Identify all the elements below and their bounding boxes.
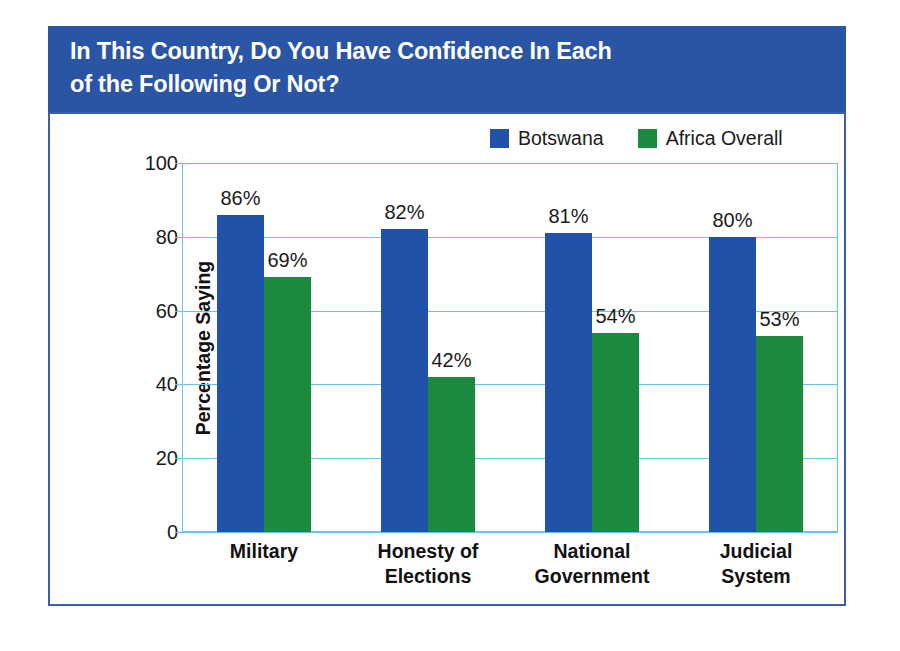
y-tick-label: 40 (118, 373, 178, 396)
bar-value-label: 54% (578, 305, 653, 328)
y-tick-label: 80 (118, 225, 178, 248)
bar-value-label: 80% (695, 209, 770, 232)
plot-area: Percentage Saying “Yes, Have Confidence”… (182, 163, 838, 532)
y-tick-label: 100 (118, 152, 178, 175)
x-tick-label: National Government (500, 539, 684, 589)
bar-value-label: 53% (742, 308, 817, 331)
bar-value-label: 81% (531, 205, 606, 228)
bar-botswana (709, 237, 756, 532)
y-tick-mark (175, 311, 182, 312)
bar-africa-overall (264, 277, 311, 532)
bar-value-label: 69% (250, 249, 325, 272)
x-tick-label: Judicial System (664, 539, 848, 589)
bar-botswana (545, 233, 592, 532)
legend-swatch-botswana (490, 129, 509, 148)
y-tick-mark (175, 384, 182, 385)
chart-legend: Botswana Africa Overall (490, 126, 783, 150)
y-tick-label: 20 (118, 447, 178, 470)
chart-figure: In This Country, Do You Have Confidence … (0, 0, 900, 651)
y-tick-mark (175, 163, 182, 164)
x-tick-label: Honesty of Elections (336, 539, 520, 589)
y-tick-label: 0 (118, 521, 178, 544)
legend-entry-botswana: Botswana (490, 127, 604, 150)
x-tick-label: Military (172, 539, 356, 564)
gridline (182, 163, 838, 164)
y-tick-mark (175, 532, 182, 533)
legend-label-africa-overall: Africa Overall (666, 127, 783, 150)
gridline (182, 532, 838, 533)
legend-swatch-africa-overall (638, 129, 657, 148)
bar-value-label: 86% (203, 187, 278, 210)
legend-label-botswana: Botswana (518, 127, 604, 150)
bar-africa-overall (756, 336, 803, 532)
bar-value-label: 42% (414, 349, 489, 372)
y-tick-mark (175, 458, 182, 459)
y-tick-label: 60 (118, 299, 178, 322)
chart-header-banner: In This Country, Do You Have Confidence … (48, 26, 846, 112)
legend-entry-africa-overall: Africa Overall (638, 127, 783, 150)
y-tick-mark (175, 237, 182, 238)
bar-africa-overall (592, 333, 639, 532)
chart-title: In This Country, Do You Have Confidence … (70, 35, 810, 101)
bar-botswana (381, 229, 428, 532)
bar-africa-overall (428, 377, 475, 532)
bar-value-label: 82% (367, 201, 442, 224)
